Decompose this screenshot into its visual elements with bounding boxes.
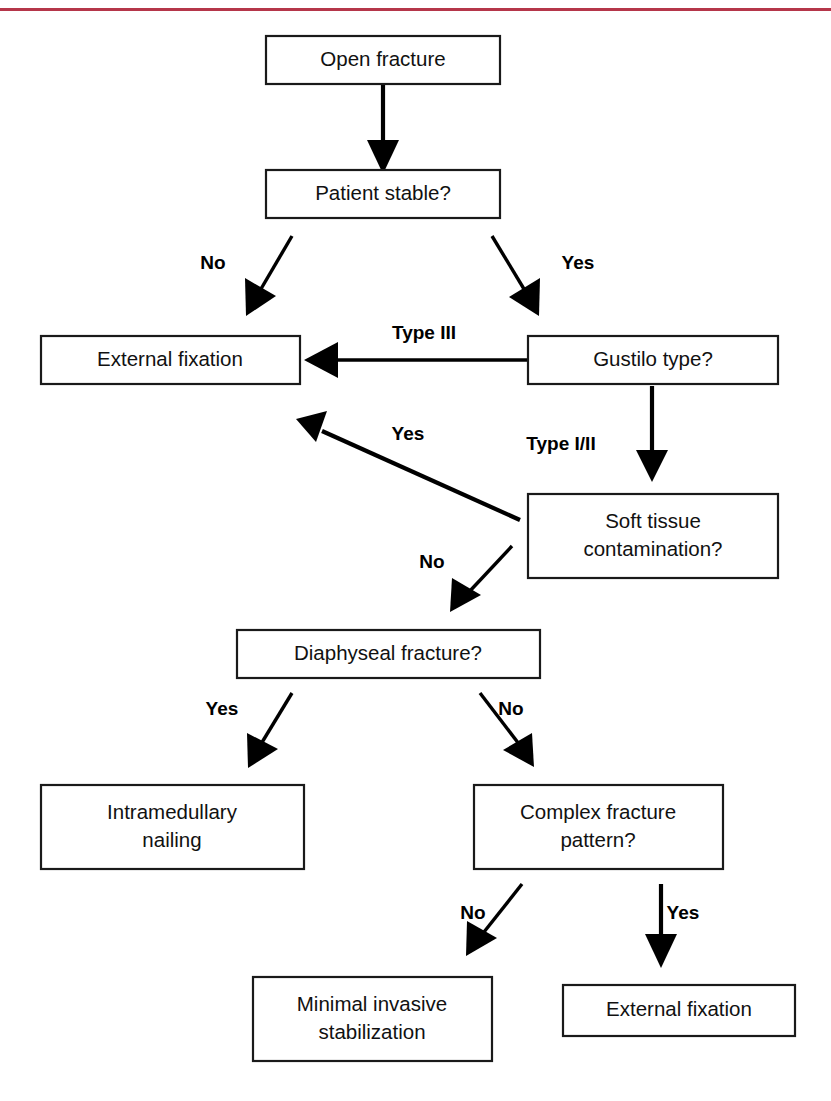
node-intramedullary-nailing[interactable]: Intramedullary nailing	[41, 785, 304, 869]
node-label-minimal-line2: stabilization	[318, 1020, 425, 1043]
node-label-intramedullary-line1: Intramedullary	[107, 800, 238, 823]
node-label-patient-stable: Patient stable?	[315, 181, 451, 204]
edge-diaphyseal-no: No	[480, 693, 534, 767]
node-label-diaphyseal-fracture: Diaphyseal fracture?	[294, 641, 482, 664]
flowchart-canvas: No Yes Type III Type I/II Yes	[0, 0, 831, 1101]
flowchart-page: No Yes Type III Type I/II Yes	[0, 0, 831, 1101]
node-label-minimal-line1: Minimal invasive	[297, 992, 447, 1015]
node-complex-fracture-pattern[interactable]: Complex fracture pattern?	[474, 785, 723, 869]
node-label-open-fracture: Open fracture	[320, 47, 445, 70]
node-diaphyseal-fracture[interactable]: Diaphyseal fracture?	[237, 630, 540, 678]
edge-label-type-i-ii: Type I/II	[526, 433, 595, 454]
node-label-external-fixation-1: External fixation	[97, 347, 243, 370]
edge-label-yes-2: Yes	[392, 423, 425, 444]
edge-label-yes-1: Yes	[562, 252, 595, 273]
edge-label-yes-4: Yes	[667, 902, 700, 923]
node-label-complex-line1: Complex fracture	[520, 800, 676, 823]
edge-soft-yes: Yes	[296, 411, 520, 520]
edge-soft-no: No	[419, 546, 512, 612]
node-external-fixation-1[interactable]: External fixation	[41, 336, 300, 384]
edge-label-yes-3: Yes	[206, 698, 239, 719]
node-patient-stable[interactable]: Patient stable?	[266, 170, 500, 218]
edge-complex-no: No	[460, 884, 522, 956]
node-soft-tissue-contamination[interactable]: Soft tissue contamination?	[528, 494, 778, 578]
node-gustilo-type[interactable]: Gustilo type?	[528, 336, 778, 384]
node-label-complex-line2: pattern?	[560, 828, 635, 851]
edge-diaphyseal-yes: Yes	[206, 693, 292, 768]
node-open-fracture[interactable]: Open fracture	[266, 36, 500, 84]
edge-stable-no: No	[200, 236, 292, 316]
edge-label-no-3: No	[498, 698, 523, 719]
edge-label-no-2: No	[419, 551, 444, 572]
node-label-intramedullary-line2: nailing	[142, 828, 201, 851]
node-label-gustilo-type: Gustilo type?	[593, 347, 713, 370]
node-external-fixation-2[interactable]: External fixation	[563, 985, 795, 1036]
edge-stable-yes: Yes	[492, 236, 594, 316]
node-label-soft-tissue-line1: Soft tissue	[605, 509, 701, 532]
edge-gustilo-typeiii-down: Type I/II	[526, 386, 668, 482]
edge-label-type-iii: Type III	[392, 322, 456, 343]
edge-open-to-stable	[367, 84, 399, 174]
edge-complex-yes: Yes	[645, 884, 699, 968]
node-label-soft-tissue-line2: contamination?	[583, 537, 722, 560]
node-label-external-fixation-2: External fixation	[606, 997, 752, 1020]
node-minimal-invasive-stabilization[interactable]: Minimal invasive stabilization	[253, 977, 492, 1061]
edge-gustilo-typeiii: Type III	[304, 322, 528, 378]
edge-label-no-1: No	[200, 252, 225, 273]
edge-label-no-4: No	[460, 902, 485, 923]
